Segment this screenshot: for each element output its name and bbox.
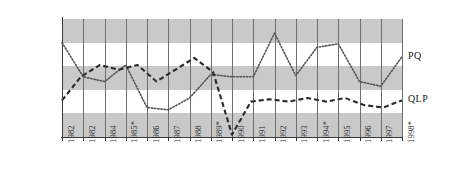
x-tick-label: 1985* <box>129 121 139 143</box>
series-lines <box>62 19 402 137</box>
x-tick <box>83 137 84 141</box>
x-tick <box>232 137 233 141</box>
series-line-pq <box>62 33 402 110</box>
x-tick <box>126 137 127 141</box>
x-tick <box>253 137 254 141</box>
x-tick-label: 1988 <box>193 125 203 143</box>
x-tick <box>190 137 191 141</box>
x-tick <box>296 137 297 141</box>
x-tick-label: 1993 <box>299 125 309 143</box>
x-tick <box>168 137 169 141</box>
x-tick-label: 1998* <box>406 121 416 143</box>
x-tick <box>105 137 106 141</box>
plot-area <box>62 19 402 137</box>
x-tick <box>381 137 382 141</box>
x-tick-label: 1982 <box>66 125 76 143</box>
series-label-qlp: QLP <box>408 93 428 104</box>
x-tick-label: 1991 <box>257 125 267 143</box>
gridline-1998* <box>402 19 403 137</box>
x-tick <box>211 137 212 141</box>
y-axis-labels: 020,00040,00060,00080,000100,000 <box>0 0 58 188</box>
series-line-qlp <box>62 58 402 135</box>
x-tick-label: 1994* <box>321 121 331 143</box>
x-tick <box>402 137 403 141</box>
x-tick <box>360 137 361 141</box>
x-tick <box>62 137 63 141</box>
x-tick-label: 1984 <box>108 125 118 143</box>
x-tick-label: 1995 <box>342 125 352 143</box>
chart-container: 020,00040,00060,00080,000100,000 1982198… <box>0 0 450 188</box>
series-label-pq: PQ <box>408 50 422 61</box>
x-tick-label: 1990 <box>236 125 246 143</box>
x-tick-label: 1982 <box>87 125 97 143</box>
x-tick-label: 1989* <box>214 121 224 143</box>
x-tick <box>338 137 339 141</box>
x-tick-label: 1996 <box>363 125 373 143</box>
x-tick-label: 1986 <box>151 125 161 143</box>
x-tick-label: 1997 <box>384 125 394 143</box>
x-tick <box>317 137 318 141</box>
x-tick-label: 1987 <box>172 125 182 143</box>
y-axis-line <box>62 17 63 138</box>
x-tick <box>147 137 148 141</box>
x-tick <box>275 137 276 141</box>
x-tick-label: 1992 <box>278 125 288 143</box>
